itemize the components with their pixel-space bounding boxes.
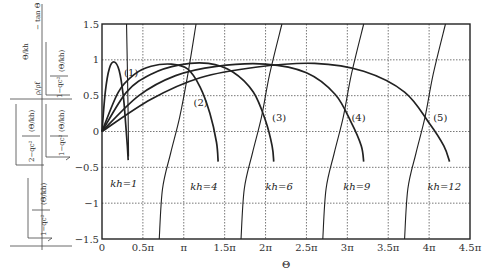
grid-lines — [102, 24, 470, 239]
annotation-label: kh=12 — [427, 181, 461, 192]
annotation-label: kh=9 — [343, 181, 371, 192]
y-tick-label: 0 — [93, 126, 99, 137]
ylabel-qc-bottom: 1−qc² — [40, 214, 48, 236]
x-axis-ticks: 00.5ππ1.5π2π2.5π3π3.5π4π4.5π — [99, 242, 482, 253]
ylabel-theta-over-kh: Θ/kh — [22, 43, 30, 60]
annotation-label: (2) — [194, 97, 208, 108]
x-tick-label: π — [180, 242, 187, 253]
x-tick-label: 3π — [341, 242, 354, 253]
ylabel-rho: ρ/ρf — [34, 80, 42, 95]
x-tick-label: 2π — [259, 242, 272, 253]
x-tick-label: 2.5π — [295, 242, 318, 253]
annotations: (1)(2)(3)(4)(5)kh=1kh=4kh=6kh=9kh=12 — [110, 67, 461, 193]
ylabel-qc-left: 2−qc² — [28, 140, 36, 162]
ylabel-term-bottom: (Θ/kh) — [40, 182, 48, 205]
ylabel-minus-tan: − tan Θ — [34, 2, 42, 30]
annotation-label: kh=1 — [110, 178, 137, 189]
x-tick-label: 4π — [423, 242, 436, 253]
annotation-label: (1) — [124, 67, 138, 78]
ylabel-term-top: (Θ/kh) — [58, 49, 66, 72]
annotation-label: kh=4 — [190, 181, 217, 192]
annotation-label: (3) — [272, 112, 286, 123]
x-tick-label: 0 — [99, 242, 105, 253]
curve-kh9 — [102, 64, 364, 162]
ylabel-term-right: (Θ/kh) — [58, 109, 66, 132]
ylabel-qc-top: 1−qc² — [56, 76, 64, 98]
annotation-label: kh=6 — [266, 181, 294, 192]
x-tick-label: 4.5π — [459, 242, 482, 253]
y-tick-label: 1 — [93, 54, 99, 65]
x-tick-label: 1.5π — [213, 242, 236, 253]
y-axis-label: Θ/kh − tan Θ ρ/ρf (Θ/kh) 1−qc² (Θ/kh) 2−… — [0, 0, 88, 274]
annotation-label: (5) — [433, 112, 447, 123]
annotation-label: (4) — [351, 112, 365, 123]
x-tick-label: 0.5π — [132, 242, 155, 253]
ylabel-qc-right: 1−qc² — [58, 134, 66, 156]
ylabel-term-left: (Θ/kh) — [28, 109, 36, 132]
x-tick-label: 3.5π — [377, 242, 400, 253]
x-axis-label: Θ — [282, 259, 290, 270]
